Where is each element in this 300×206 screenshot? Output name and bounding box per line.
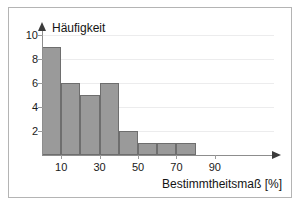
plot-area: 2 4 6 8 10 10 30 50 70 90 Häufigkeit Bes…: [0, 0, 300, 206]
gridline-10: [42, 35, 274, 36]
x-axis-line: [42, 155, 278, 156]
y-tick-mark-2: [38, 131, 43, 132]
y-axis-arrow-icon: [38, 22, 46, 31]
bar-bin-70-80: [176, 143, 195, 155]
bar-bin-0-10: [42, 47, 61, 155]
x-axis-label: Bestimmtheitsmaß [%]: [0, 177, 282, 191]
x-tick-mark-70: [176, 155, 177, 159]
histogram-figure: 2 4 6 8 10 10 30 50 70 90 Häufigkeit Bes…: [0, 0, 300, 206]
y-tick-label-2-wrap: 2: [12, 126, 38, 137]
y-tick-label-10: 10: [16, 30, 38, 41]
y-tick-label-2: 2: [16, 126, 38, 137]
y-tick-label-6: 6: [16, 78, 38, 89]
y-tick-mark-8: [38, 59, 43, 60]
bar-bin-60-70: [157, 143, 176, 155]
x-tick-label-10: 10: [46, 161, 76, 174]
y-tick-label-10-wrap: 10: [12, 30, 38, 41]
y-axis-label: Häufigkeit: [52, 21, 105, 35]
x-tick-mark-10: [61, 155, 62, 159]
y-tick-label-6-wrap: 6: [12, 78, 38, 89]
bar-bin-40-50: [119, 131, 138, 155]
x-tick-label-50: 50: [123, 161, 153, 174]
bar-bin-20-30: [80, 95, 99, 155]
x-tick-mark-90: [215, 155, 216, 159]
y-tick-label-8: 8: [16, 54, 38, 65]
y-tick-label-4: 4: [16, 102, 38, 113]
x-tick-mark-30: [100, 155, 101, 159]
gridline-8: [42, 59, 274, 60]
y-tick-mark-6: [38, 83, 43, 84]
x-axis-arrow-icon: [272, 151, 281, 159]
y-tick-label-4-wrap: 4: [12, 102, 38, 113]
y-axis-line: [42, 31, 43, 155]
y-tick-mark-4: [38, 107, 43, 108]
bar-bin-30-40: [100, 83, 119, 155]
x-tick-label-90: 90: [200, 161, 230, 174]
x-tick-mark-50: [138, 155, 139, 159]
x-tick-label-70: 70: [161, 161, 191, 174]
y-tick-label-8-wrap: 8: [12, 54, 38, 65]
bar-bin-50-60: [138, 143, 157, 155]
x-tick-label-30: 30: [85, 161, 115, 174]
bar-bin-10-20: [61, 83, 80, 155]
y-tick-mark-10: [38, 35, 43, 36]
